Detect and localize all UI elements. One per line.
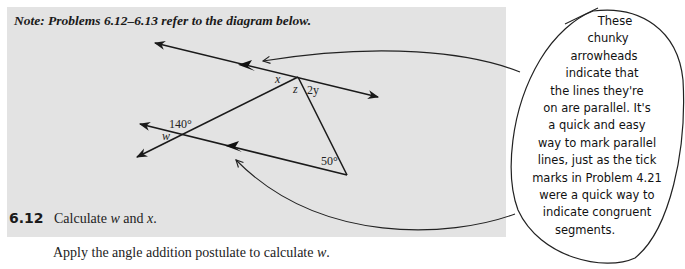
problem-statement: Calculate w and x. xyxy=(54,211,157,227)
label-50: 50° xyxy=(321,154,338,168)
label-w: w xyxy=(162,129,170,143)
annotation-line: These xyxy=(518,13,676,30)
instruction-variable: w xyxy=(317,245,326,260)
annotation-line: indicate congruent xyxy=(518,204,676,221)
problem-text-part: Calculate xyxy=(54,211,110,226)
label-140: 140° xyxy=(169,117,192,131)
annotation-text: These chunky arrowheads indicate that th… xyxy=(518,13,676,239)
label-x: x xyxy=(274,72,281,86)
annotation-line: arrowheads xyxy=(518,48,676,65)
annotation-line: marks in Problem 4.21 xyxy=(518,170,676,187)
annotation-line: way to mark parallel xyxy=(518,135,676,152)
annotation-line: indicate that xyxy=(518,65,676,82)
top-parallel-line xyxy=(155,43,378,97)
annotation-line: a quick and easy xyxy=(518,117,676,134)
problem-text-part: . xyxy=(153,211,157,226)
label-2y: 2y xyxy=(307,83,319,97)
parallel-arrowhead-icon xyxy=(225,141,242,152)
instruction-text: . xyxy=(326,245,330,260)
problem-text-part: and xyxy=(120,211,147,226)
annotation-line: the lines they're xyxy=(518,83,676,100)
callout-arrow-top xyxy=(263,51,520,72)
problem-variable: w xyxy=(110,211,119,226)
solution-instruction: Apply the angle addition postulate to ca… xyxy=(53,245,330,261)
annotation-line: on are parallel. It's xyxy=(518,100,676,117)
parallel-arrowhead-icon xyxy=(238,60,255,71)
instruction-text: Apply the angle addition postulate to ca… xyxy=(53,245,317,260)
annotation-line: lines, just as the tick xyxy=(518,152,676,169)
problem-number: 6.12 xyxy=(9,210,44,226)
annotation-line: chunky xyxy=(518,30,676,47)
annotation-line: were a quick way to xyxy=(518,187,676,204)
label-z: z xyxy=(292,82,298,96)
annotation-line: segments. xyxy=(518,222,676,239)
transversal-line xyxy=(137,77,298,157)
callout-arrow-bottom xyxy=(236,160,515,230)
